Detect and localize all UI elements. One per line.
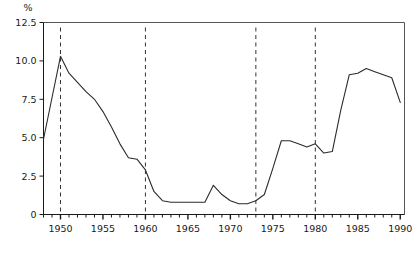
y-tick-label: 5.0 [21,132,36,143]
x-tick-label: 1985 [346,223,370,234]
y-axis-ticks [40,23,44,215]
chart-page: 02.55.07.510.012.5 195019551960196519701… [0,0,418,256]
line-chart: 02.55.07.510.012.5 195019551960196519701… [0,0,418,256]
plot-frame [44,23,405,215]
x-tick-label: 1955 [91,223,115,234]
x-tick-label: 1975 [261,223,285,234]
y-tick-label: 10.0 [15,55,36,66]
x-tick-label: 1960 [133,223,157,234]
x-tick-label: 1990 [388,223,412,234]
x-tick-label: 1950 [48,223,72,234]
series-line [44,56,401,203]
y-tick-label: 0 [30,209,36,220]
x-tick-label: 1965 [176,223,200,234]
y-tick-label: 12.5 [15,17,36,28]
y-axis-unit-label: % [23,2,32,13]
data-series-lines [44,56,401,203]
reference-vlines [60,28,315,215]
y-tick-label: 7.5 [21,94,36,105]
x-axis-tick-labels: 195019551960196519701975198019851990 [48,223,412,234]
x-tick-label: 1980 [303,223,327,234]
x-tick-label: 1970 [218,223,242,234]
y-tick-label: 2.5 [21,171,36,182]
y-axis-tick-labels: 02.55.07.510.012.5 [15,17,36,220]
